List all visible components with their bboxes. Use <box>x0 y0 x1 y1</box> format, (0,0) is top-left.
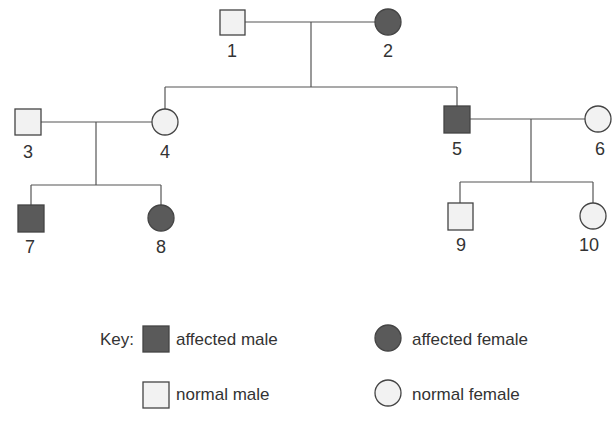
normal-female-circle-icon <box>375 380 401 406</box>
individual-label: 8 <box>156 237 166 257</box>
affected-female-circle-icon <box>148 205 174 231</box>
individual-4: 4 <box>152 109 178 162</box>
individual-label: 6 <box>595 139 605 159</box>
individual-9: 9 <box>448 203 473 255</box>
affected-female-circle-icon <box>375 325 401 351</box>
pedigree-connectors <box>31 22 593 205</box>
individual-10: 10 <box>579 203 606 255</box>
individual-label: 1 <box>227 41 237 61</box>
pedigree-diagram: 1 2 3 4 5 6 7 8 9 10 Key: <box>0 0 616 425</box>
legend-item-normal-female: normal female <box>375 380 520 406</box>
normal-male-square-icon <box>220 10 245 35</box>
legend-item-affected-male: affected male <box>143 326 278 352</box>
legend-label: affected male <box>176 330 278 349</box>
affected-male-square-icon <box>143 326 169 352</box>
individual-label: 10 <box>579 235 599 255</box>
normal-male-square-icon <box>448 203 473 230</box>
individual-label: 3 <box>23 142 33 162</box>
legend: Key: affected male affected female norma… <box>100 325 528 408</box>
affected-male-square-icon <box>18 205 44 232</box>
normal-female-circle-icon <box>580 203 606 229</box>
normal-male-square-icon <box>143 382 169 408</box>
individual-5: 5 <box>444 106 470 159</box>
individual-6: 6 <box>585 106 611 159</box>
legend-label: normal male <box>176 385 270 404</box>
individual-2: 2 <box>375 9 401 61</box>
legend-label: affected female <box>412 330 528 349</box>
individual-label: 5 <box>452 139 462 159</box>
individual-1: 1 <box>220 10 245 61</box>
affected-male-square-icon <box>444 106 470 133</box>
normal-female-circle-icon <box>585 106 611 132</box>
normal-female-circle-icon <box>152 109 178 135</box>
normal-male-square-icon <box>15 109 41 135</box>
individual-3: 3 <box>15 109 41 162</box>
legend-item-normal-male: normal male <box>143 382 270 408</box>
individual-7: 7 <box>18 205 44 257</box>
individual-label: 9 <box>456 235 466 255</box>
legend-title: Key: <box>100 330 134 349</box>
individual-label: 4 <box>160 142 170 162</box>
individual-label: 7 <box>25 237 35 257</box>
legend-item-affected-female: affected female <box>375 325 528 351</box>
individual-label: 2 <box>383 41 393 61</box>
individual-8: 8 <box>148 205 174 257</box>
affected-female-circle-icon <box>375 9 401 35</box>
legend-label: normal female <box>412 385 520 404</box>
